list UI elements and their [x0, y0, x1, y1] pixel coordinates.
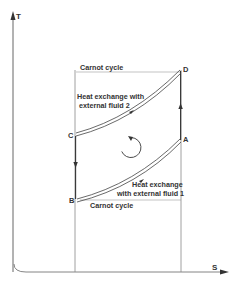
- s-axis-label: S: [212, 263, 218, 272]
- upper-curve-label-line1: Heat exchange with: [77, 92, 144, 101]
- top-carnot-label: Carnot cycle: [80, 63, 123, 72]
- s-axis-line: [14, 264, 222, 272]
- bottom-carnot-label: Carnot cycle: [90, 201, 133, 210]
- lower-curve-label-line2: with external fluid 1: [116, 189, 184, 198]
- down-arrow-icon: [73, 162, 77, 168]
- ts-diagram: T S D C B A Carnot cycle Heat exchange w…: [0, 0, 233, 281]
- point-a-label: A: [183, 135, 189, 144]
- upper-curve-label-line2: external fluid 2: [79, 101, 130, 110]
- up-arrow-icon: [178, 103, 182, 109]
- s-axis-arrow-icon: [220, 270, 229, 275]
- point-d-label: D: [183, 65, 189, 74]
- lower-curve-label-line1: Heat exchange: [132, 180, 183, 189]
- point-c-label: C: [68, 131, 74, 140]
- clockwise-cycle-icon: [120, 136, 143, 159]
- t-axis: T: [11, 11, 22, 272]
- t-axis-arrow-icon: [11, 11, 16, 20]
- s-axis: S: [14, 263, 229, 275]
- point-b-label: B: [69, 196, 75, 205]
- t-axis-label: T: [16, 12, 21, 21]
